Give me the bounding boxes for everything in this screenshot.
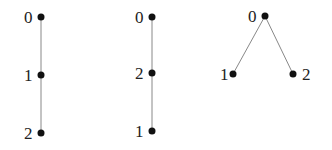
graph-3: 012 xyxy=(220,7,311,84)
node-label: 0 xyxy=(24,8,33,27)
node-1 xyxy=(149,128,156,135)
node-2 xyxy=(290,71,297,78)
node-0 xyxy=(149,14,156,21)
node-1 xyxy=(230,71,237,78)
node-label: 2 xyxy=(24,124,33,143)
diagram-canvas: 012021012 xyxy=(0,0,332,150)
node-2 xyxy=(149,70,156,77)
node-0 xyxy=(262,13,269,20)
node-label: 2 xyxy=(135,64,144,83)
node-label: 0 xyxy=(135,8,144,27)
graph-2: 021 xyxy=(135,8,156,141)
graph-1: 012 xyxy=(24,8,45,143)
node-label: 0 xyxy=(248,7,257,26)
node-1 xyxy=(38,72,45,79)
node-0 xyxy=(38,14,45,21)
node-label: 1 xyxy=(24,66,33,85)
node-label: 1 xyxy=(135,122,144,141)
node-label: 2 xyxy=(302,65,311,84)
edge-0-2 xyxy=(265,16,293,74)
node-label: 1 xyxy=(220,65,229,84)
node-2 xyxy=(38,130,45,137)
